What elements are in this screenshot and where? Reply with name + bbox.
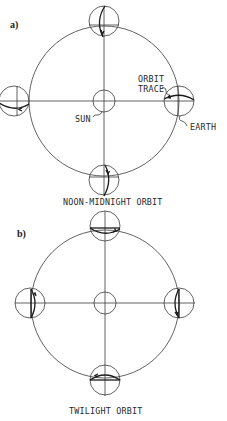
orbit-trace-label-line1: ORBIT <box>138 74 164 84</box>
panel-b-label: b) <box>17 228 26 240</box>
panel-b: b) <box>15 211 195 416</box>
earth-leader-line <box>179 116 187 126</box>
orbit-trace <box>0 103 29 108</box>
sun-leader-line <box>93 112 102 117</box>
panel-a: a) SUN <box>0 6 216 207</box>
panel-b-caption: TWILIGHT ORBIT <box>69 406 142 416</box>
orbit-trace <box>104 165 109 196</box>
orbit-trace-label-line2: TRACE <box>138 84 164 94</box>
panel-a-caption: NOON-MIDNIGHT ORBIT <box>63 197 163 207</box>
earth-label: EARTH <box>190 122 216 132</box>
sun-label: SUN <box>75 114 91 124</box>
orbit-diagram: a) SUN <box>0 0 227 421</box>
panel-a-label: a) <box>10 19 18 31</box>
